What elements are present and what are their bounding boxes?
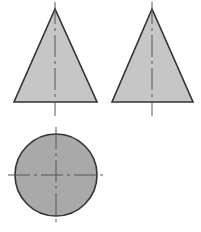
orthographic-projection-drawing xyxy=(0,0,201,232)
front-elevation-view xyxy=(14,2,97,116)
drawing-sheet xyxy=(0,0,201,232)
plan-view xyxy=(8,127,106,226)
side-elevation-view xyxy=(112,2,193,116)
